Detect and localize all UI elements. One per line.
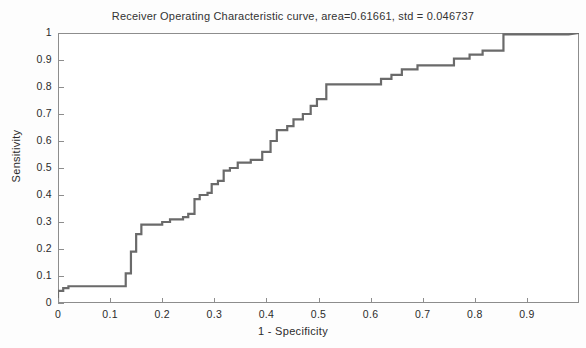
y-tick-label: 0.3	[6, 215, 52, 227]
x-tick-label: 0.1	[90, 308, 130, 320]
y-tick-mark	[58, 60, 64, 61]
y-tick-mark	[58, 87, 64, 88]
y-tick-mark	[58, 249, 64, 250]
x-tick-label: 0.3	[194, 308, 234, 320]
y-tick-label: 1	[6, 26, 52, 38]
x-axis-label: 1 - Specificity	[0, 325, 586, 337]
y-tick-mark	[58, 114, 64, 115]
y-tick-mark	[58, 141, 64, 142]
x-tick-mark	[214, 298, 215, 303]
y-tick-label: 0.9	[6, 53, 52, 65]
chart-title: Receiver Operating Characteristic curve,…	[0, 10, 586, 22]
x-tick-label: 0.4	[246, 308, 286, 320]
x-tick-label: 0.2	[142, 308, 182, 320]
y-tick-mark	[58, 33, 64, 34]
plot-area	[58, 33, 579, 303]
y-tick-label: 0.8	[6, 80, 52, 92]
x-tick-mark	[475, 298, 476, 303]
x-tick-mark	[319, 298, 320, 303]
x-tick-mark	[110, 298, 111, 303]
x-tick-mark	[527, 298, 528, 303]
y-tick-label: 0.1	[6, 269, 52, 281]
x-tick-mark	[266, 298, 267, 303]
y-tick-mark	[58, 195, 64, 196]
x-tick-mark	[58, 298, 59, 303]
x-tick-mark	[423, 298, 424, 303]
roc-chart-figure: Receiver Operating Characteristic curve,…	[0, 0, 586, 348]
x-tick-mark	[162, 298, 163, 303]
x-tick-label: 0.5	[299, 308, 339, 320]
y-tick-label: 0	[6, 296, 52, 308]
x-tick-label: 0.9	[507, 308, 547, 320]
y-tick-label: 0.2	[6, 242, 52, 254]
y-tick-mark	[58, 276, 64, 277]
y-tick-mark	[58, 222, 64, 223]
y-axis-label: Sensitivity	[10, 116, 22, 196]
y-tick-mark	[58, 303, 64, 304]
y-tick-mark	[58, 168, 64, 169]
x-tick-label: 0.6	[351, 308, 391, 320]
x-tick-label: 0.7	[403, 308, 443, 320]
x-tick-label: 0	[38, 308, 78, 320]
x-tick-mark	[371, 298, 372, 303]
x-tick-label: 0.8	[455, 308, 495, 320]
